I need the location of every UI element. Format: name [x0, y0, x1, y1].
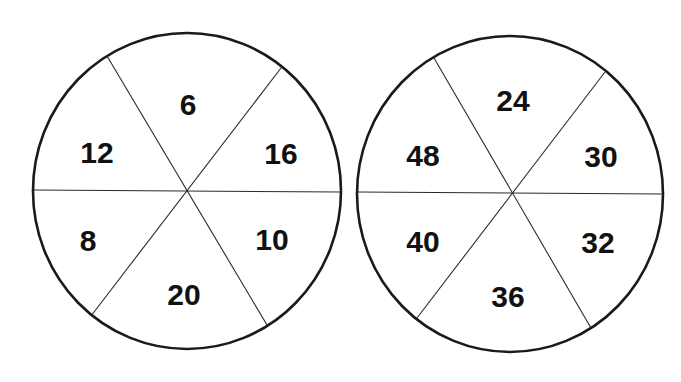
right-wheel-segment-lower-right: 32 [581, 226, 614, 259]
left-wheel-segment-upper-right: 16 [264, 137, 297, 170]
left-wheel-segment-lower-left: 8 [80, 224, 97, 257]
right-wheel-segment-bottom: 36 [491, 280, 524, 313]
right-wheel-segment-lower-left: 40 [406, 225, 439, 258]
left-wheel: 6 16 10 20 8 12 [33, 33, 341, 349]
right-wheel-segment-top: 24 [496, 84, 530, 117]
number-wheels-diagram: 6 16 10 20 8 12 24 30 32 36 40 48 [0, 0, 681, 382]
right-wheel-segment-upper-left: 48 [406, 139, 439, 172]
left-wheel-segment-lower-right: 10 [255, 223, 288, 256]
right-wheel: 24 30 32 36 40 48 [357, 36, 663, 352]
right-wheel-segment-upper-right: 30 [584, 140, 617, 173]
left-wheel-segment-upper-left: 12 [80, 136, 113, 169]
left-wheel-segment-bottom: 20 [167, 278, 200, 311]
left-wheel-segment-top: 6 [180, 88, 197, 121]
